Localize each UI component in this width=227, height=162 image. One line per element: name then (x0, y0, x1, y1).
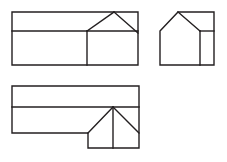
drawing-canvas (0, 0, 227, 162)
